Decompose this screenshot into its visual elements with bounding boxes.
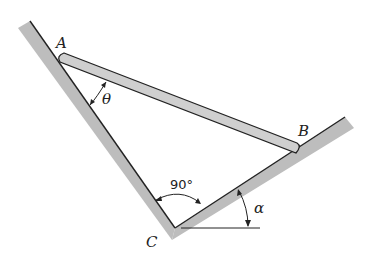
label-b: B [297,122,309,140]
label-c: C [146,233,158,251]
rod-ab [59,53,300,153]
label-90-degrees: 90° [170,177,193,192]
label-alpha: α [254,199,264,217]
left-wall-line [30,21,175,228]
right-angle-arrow-2 [195,198,201,204]
right-angle-arrow-1 [155,196,162,201]
left-wall-hatch [18,21,175,240]
alpha-arrow-2 [245,220,251,227]
label-a: A [54,34,67,52]
label-theta: θ [102,90,111,108]
theta-arrow-2 [101,82,106,88]
diagram-canvas: A B C θ 90° α [0,0,376,256]
right-angle-arc [156,194,200,203]
